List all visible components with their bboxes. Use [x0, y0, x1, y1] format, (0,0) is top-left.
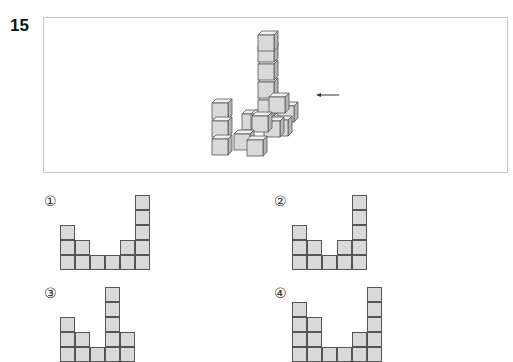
grid-cell [120, 240, 135, 255]
grid-cell [292, 332, 307, 347]
grid-cell [352, 210, 367, 225]
option-1-label[interactable]: ① [44, 193, 57, 209]
question-number: 15 [10, 16, 29, 36]
grid-cell [120, 255, 135, 270]
grid-cell [60, 347, 75, 362]
grid-cell [337, 347, 352, 362]
grid-cell [352, 332, 367, 347]
grid-cell [60, 332, 75, 347]
grid-cell [60, 225, 75, 240]
grid-cell [352, 225, 367, 240]
grid-cell [292, 225, 307, 240]
grid-cell [60, 255, 75, 270]
grid-cell [75, 255, 90, 270]
grid-cell [292, 317, 307, 332]
grid-cell [367, 287, 382, 302]
grid-cell [367, 347, 382, 362]
option-2-label[interactable]: ② [274, 193, 287, 209]
grid-cell [307, 347, 322, 362]
grid-cell [105, 317, 120, 332]
grid-cell [292, 255, 307, 270]
grid-cell [105, 302, 120, 317]
grid-cell [352, 347, 367, 362]
option-4-view[interactable] [292, 284, 382, 362]
grid-cell [135, 195, 150, 210]
grid-cell [135, 255, 150, 270]
grid-cell [90, 347, 105, 362]
grid-cell [352, 240, 367, 255]
grid-cell [337, 240, 352, 255]
grid-cell [105, 255, 120, 270]
grid-cell [60, 317, 75, 332]
option-4-label[interactable]: ④ [274, 285, 287, 301]
cube-figure-box [43, 17, 508, 173]
grid-cell [307, 317, 322, 332]
grid-cell [292, 302, 307, 317]
grid-cell [352, 195, 367, 210]
grid-cell [135, 225, 150, 240]
grid-cell [367, 332, 382, 347]
grid-cell [135, 240, 150, 255]
option-2-view[interactable] [292, 192, 367, 270]
option-3-view[interactable] [60, 284, 135, 362]
grid-cell [292, 347, 307, 362]
grid-cell [322, 255, 337, 270]
grid-cell [307, 255, 322, 270]
grid-cell [105, 332, 120, 347]
grid-cell [337, 255, 352, 270]
grid-cell [75, 240, 90, 255]
grid-cell [90, 255, 105, 270]
grid-cell [367, 317, 382, 332]
option-1-view[interactable] [60, 192, 150, 270]
grid-cell [322, 347, 337, 362]
grid-cell [105, 287, 120, 302]
grid-cell [352, 255, 367, 270]
grid-cell [120, 332, 135, 347]
grid-cell [307, 332, 322, 347]
grid-cell [75, 332, 90, 347]
grid-cell [292, 240, 307, 255]
grid-cell [120, 347, 135, 362]
option-3-label[interactable]: ③ [44, 285, 57, 301]
grid-cell [307, 240, 322, 255]
grid-cell [135, 210, 150, 225]
cube-stack-figure [44, 18, 509, 174]
grid-cell [367, 302, 382, 317]
grid-cell [60, 240, 75, 255]
grid-cell [105, 347, 120, 362]
grid-cell [75, 347, 90, 362]
